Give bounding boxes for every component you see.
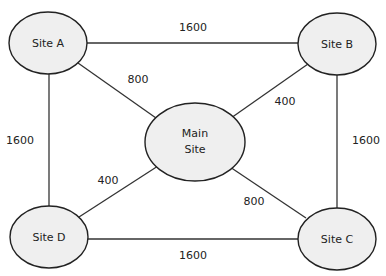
node-site-a: Site A [9, 12, 87, 74]
node-label-main-line1: Main [182, 127, 208, 140]
node-label-site-c: Site C [321, 233, 354, 246]
weight-label-a-b: 1600 [179, 21, 207, 34]
edge-a-main [78, 63, 156, 118]
weight-label-d-c: 1600 [179, 249, 207, 262]
node-label-site-d: Site D [32, 231, 65, 244]
edge-d-main [79, 166, 158, 217]
weight-label-main-c: 800 [244, 195, 265, 208]
edge-b-main [231, 64, 308, 118]
node-label-main-line2: Site [184, 143, 205, 156]
node-site-c: Site C [298, 208, 376, 270]
node-site-b: Site B [298, 13, 376, 75]
node-label-site-a: Site A [32, 37, 65, 50]
node-site-d: Site D [10, 206, 88, 268]
weight-label-a-d: 1600 [6, 134, 34, 147]
weight-label-b-c: 1600 [352, 134, 380, 147]
weight-label-b-main: 400 [275, 95, 296, 108]
node-label-site-b: Site B [321, 38, 353, 51]
weight-label-d-main: 400 [98, 174, 119, 187]
weight-label-a-main: 800 [128, 73, 149, 86]
network-diagram: 1600 800 400 1600 1600 400 800 1600 Site… [0, 0, 386, 276]
node-main-site: Main Site [145, 103, 245, 181]
edge-main-c [230, 167, 306, 218]
